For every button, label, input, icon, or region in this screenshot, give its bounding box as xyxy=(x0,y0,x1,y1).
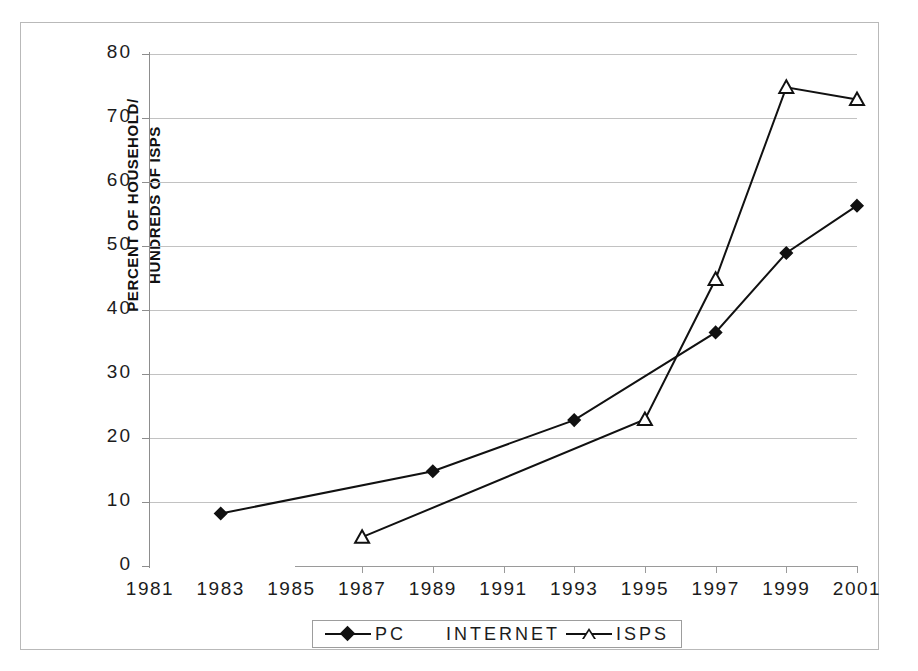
data-point-marker-triangle xyxy=(638,412,652,425)
y-tick-label: 50 xyxy=(72,233,132,255)
filled-diamond-marker-icon xyxy=(325,627,371,641)
legend-entry-pc: PC xyxy=(325,624,406,645)
y-axis-title-line-1: PERCENT OF HOUSEHOLD/ xyxy=(122,40,144,370)
y-tick-label: 20 xyxy=(72,425,132,447)
y-tick xyxy=(142,310,150,311)
chart-figure: PERCENT OF HOUSEHOLD/ HUNDREDS OF ISPS 0… xyxy=(0,0,918,671)
data-point-marker-diamond xyxy=(215,508,227,520)
data-point-marker-triangle xyxy=(779,80,793,93)
data-point-marker-diamond xyxy=(427,465,439,477)
y-tick xyxy=(142,438,150,439)
plot-area xyxy=(150,54,857,566)
y-tick-label: 80 xyxy=(72,41,132,63)
chart-legend: PC INTERNET ISPS xyxy=(312,620,682,648)
y-tick xyxy=(142,118,150,119)
y-tick xyxy=(142,374,150,375)
series-line-pc-internet xyxy=(221,206,857,514)
x-tick xyxy=(362,566,363,573)
y-tick xyxy=(142,182,150,183)
legend-entry-isps: ISPS xyxy=(566,624,669,645)
series-layer xyxy=(150,54,857,566)
x-tick xyxy=(574,566,575,573)
x-tick xyxy=(645,566,646,573)
legend-label-isps: ISPS xyxy=(616,624,669,645)
y-tick xyxy=(142,246,150,247)
x-tick-label: 2001 xyxy=(812,578,902,600)
data-point-marker-triangle xyxy=(355,530,369,543)
x-tick xyxy=(433,566,434,573)
legend-label-internet: INTERNET xyxy=(446,624,560,645)
x-axis-line xyxy=(295,566,857,567)
y-tick xyxy=(142,566,150,567)
y-tick-label: 60 xyxy=(72,169,132,191)
x-tick xyxy=(857,566,858,573)
y-tick-label: 70 xyxy=(72,105,132,127)
legend-label-pc: PC xyxy=(375,624,406,645)
y-tick xyxy=(142,502,150,503)
y-tick-label: 40 xyxy=(72,297,132,319)
x-tick xyxy=(504,566,505,573)
x-tick xyxy=(716,566,717,573)
y-tick-label: 30 xyxy=(72,361,132,383)
legend-entry-internet: INTERNET xyxy=(412,624,560,645)
y-tick-label: 0 xyxy=(72,553,132,575)
y-tick xyxy=(142,54,150,55)
x-tick xyxy=(786,566,787,573)
data-point-marker-diamond xyxy=(568,414,580,426)
open-triangle-marker-icon xyxy=(566,627,612,641)
data-point-marker-triangle xyxy=(709,272,723,285)
y-tick-label: 10 xyxy=(72,489,132,511)
